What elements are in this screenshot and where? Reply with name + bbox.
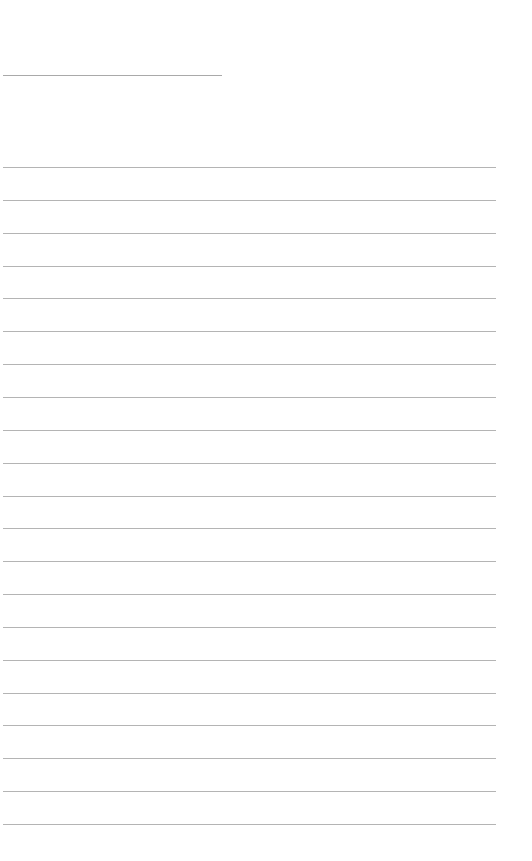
ruled-line	[3, 298, 496, 299]
ruled-line	[3, 331, 496, 332]
header-line	[3, 75, 222, 76]
ruled-line	[3, 627, 496, 628]
ruled-line	[3, 496, 496, 497]
ruled-line	[3, 660, 496, 661]
ruled-line	[3, 167, 496, 168]
ruled-line	[3, 824, 496, 825]
ruled-line	[3, 266, 496, 267]
ruled-line	[3, 791, 496, 792]
ruled-line	[3, 430, 496, 431]
ruled-line	[3, 528, 496, 529]
ruled-line	[3, 200, 496, 201]
ruled-line	[3, 561, 496, 562]
ruled-line	[3, 233, 496, 234]
ruled-line	[3, 594, 496, 595]
ruled-line	[3, 397, 496, 398]
ruled-line	[3, 693, 496, 694]
ruled-line	[3, 758, 496, 759]
ruled-line	[3, 364, 496, 365]
ruled-line	[3, 463, 496, 464]
ruled-line	[3, 725, 496, 726]
